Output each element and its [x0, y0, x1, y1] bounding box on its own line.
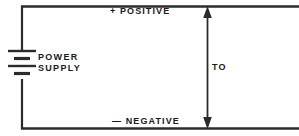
arrowhead-up-icon: [203, 6, 212, 18]
measurement-span-label: TO: [212, 62, 227, 73]
positive-terminal-label: + POSITIVE: [110, 6, 170, 17]
schematic-diagram: + POSITIVE — NEGATIVE TO POWER SUPPLY: [0, 0, 299, 136]
arrowhead-down-icon: [203, 117, 212, 129]
battery-symbol: [8, 51, 36, 74]
negative-terminal-label: — NEGATIVE: [112, 116, 180, 127]
power-supply-label-line2: SUPPLY: [38, 63, 81, 74]
power-supply-label: POWER SUPPLY: [38, 52, 81, 74]
double-headed-measurement-arrow: [203, 6, 212, 129]
power-supply-label-line1: POWER: [38, 52, 81, 63]
